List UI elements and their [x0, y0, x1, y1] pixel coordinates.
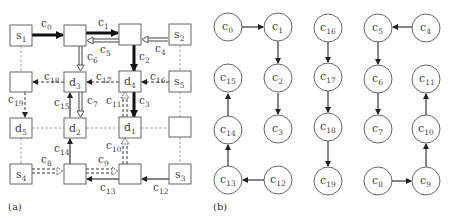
- svg-text:c9: c9: [98, 153, 109, 168]
- node-s4: s4: [10, 164, 32, 184]
- node-c16: c16: [314, 14, 342, 42]
- node-c18: c18: [314, 113, 342, 141]
- node-empty-r3c4: [169, 117, 191, 137]
- svg-text:c5: c5: [100, 43, 111, 58]
- node-c12: c12: [264, 166, 292, 194]
- node-empty-r4c3: [119, 164, 141, 184]
- node-empty-r4c2: [64, 164, 86, 184]
- node-c7: c7: [364, 115, 392, 143]
- node-c6: c6: [364, 65, 392, 93]
- figure: s1 s2 d3 d4 s5 d5 d2 d: [0, 0, 452, 218]
- node-c2: c2: [264, 64, 292, 92]
- svg-text:c1: c1: [98, 16, 109, 31]
- panel-a: s1 s2 d3 d4 s5 d5 d2 d: [8, 16, 191, 212]
- node-c13: c13: [214, 166, 242, 194]
- node-c19: c19: [314, 167, 342, 195]
- svg-text:c19: c19: [8, 93, 24, 108]
- node-c4: c4: [412, 14, 440, 42]
- grid-lines: [21, 45, 180, 164]
- svg-text:c13: c13: [100, 181, 116, 196]
- svg-text:c2: c2: [139, 50, 150, 65]
- node-c0: c0: [214, 13, 242, 41]
- svg-text:c11: c11: [106, 94, 121, 109]
- svg-text:c0: c0: [41, 17, 52, 32]
- edge-c7: [77, 92, 84, 117]
- node-c11: c11: [412, 65, 440, 93]
- caption-b: (b): [213, 201, 227, 212]
- svg-text:c14: c14: [54, 142, 70, 157]
- node-c5: c5: [364, 14, 392, 42]
- node-c8: c8: [364, 167, 392, 195]
- node-d2: d2: [64, 118, 86, 138]
- node-c15: c15: [214, 64, 242, 92]
- caption-a: (a): [8, 201, 22, 212]
- dependency-edges: [228, 27, 426, 181]
- node-c10: c10: [412, 115, 440, 143]
- node-s3: s3: [169, 164, 191, 184]
- panel-b: c0 c1 c16 c5 c4 c15 c2 c17 c6 c11 c14 c3…: [213, 13, 440, 212]
- node-c14: c14: [214, 116, 242, 144]
- node-d1: d1: [119, 117, 141, 138]
- svg-text:c3: c3: [139, 94, 150, 109]
- svg-text:c8: c8: [41, 153, 52, 168]
- edge-c8: [32, 167, 63, 175]
- node-c1: c1: [264, 13, 292, 41]
- node-d3: d3: [64, 72, 86, 92]
- edge-c10: [121, 138, 129, 164]
- node-s1: s1: [10, 25, 32, 46]
- node-s5: s5: [169, 71, 191, 92]
- node-d5: d5: [10, 118, 32, 138]
- edge-c9: [86, 167, 118, 175]
- node-empty-r1c3: [119, 24, 141, 45]
- svg-text:c15: c15: [54, 96, 70, 111]
- svg-text:c16: c16: [150, 70, 166, 85]
- node-d4: d4: [119, 71, 141, 92]
- svg-text:c10: c10: [106, 139, 122, 154]
- svg-text:c7: c7: [87, 94, 98, 109]
- edge-c6: [77, 46, 84, 71]
- node-c3: c3: [264, 115, 292, 143]
- svg-text:c18: c18: [44, 70, 60, 85]
- svg-text:c4: c4: [155, 42, 166, 57]
- svg-text:c6: c6: [87, 50, 98, 65]
- svg-text:c12: c12: [153, 181, 169, 196]
- node-empty-r1c2: [64, 25, 86, 46]
- node-s2: s2: [169, 24, 191, 45]
- node-empty-r2c1: [10, 72, 32, 92]
- svg-text:c17: c17: [96, 70, 112, 85]
- edge-c11: [121, 92, 129, 117]
- node-c9: c9: [412, 167, 440, 195]
- node-c17: c17: [314, 63, 342, 91]
